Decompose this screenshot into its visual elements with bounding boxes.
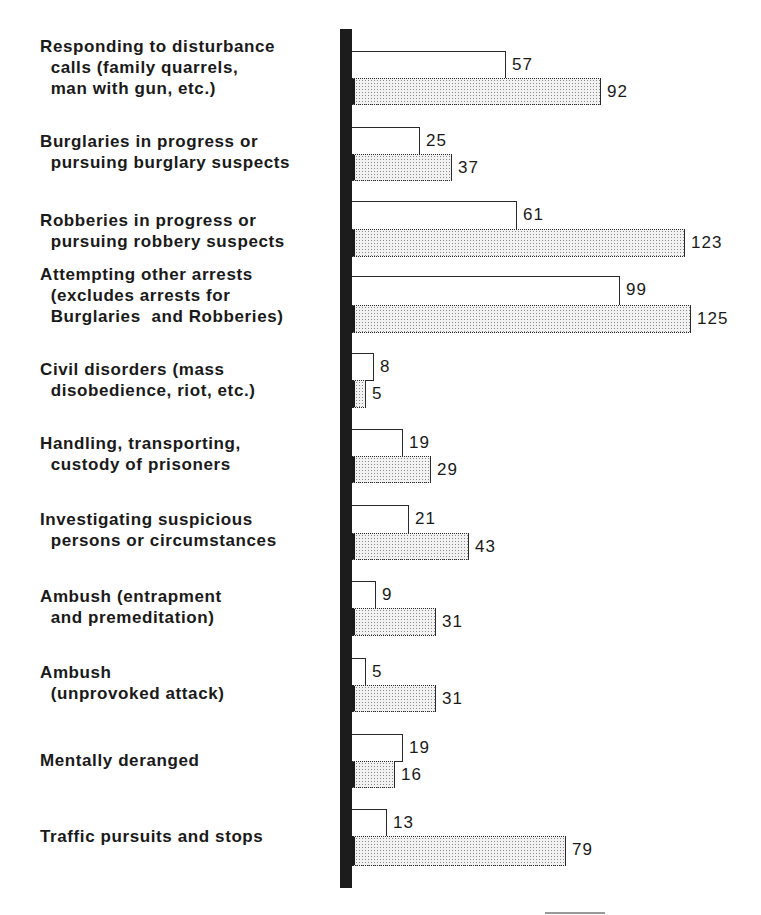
value-label-white: 19 <box>409 738 430 758</box>
value-label-white: 9 <box>382 585 392 605</box>
bar-dotted <box>352 836 566 866</box>
bar-dotted <box>352 608 436 636</box>
bar-dotted <box>352 380 366 408</box>
category-label: Traffic pursuits and stops <box>40 826 263 847</box>
value-label-white: 19 <box>409 433 430 453</box>
category-label: Responding to disturbance calls (family … <box>40 36 275 99</box>
category-label: Mentally deranged <box>40 750 199 771</box>
category-label: Civil disorders (mass disobedience, riot… <box>40 359 256 401</box>
value-label-dotted: 29 <box>437 460 458 480</box>
category-label: Investigating suspicious persons or circ… <box>40 509 277 551</box>
category-label: Ambush (unprovoked attack) <box>40 662 225 704</box>
bar-dotted <box>352 229 685 257</box>
value-label-white: 25 <box>426 131 447 151</box>
value-label-dotted: 5 <box>372 384 382 404</box>
bar-white <box>352 505 409 534</box>
category-label: Attempting other arrests (excludes arres… <box>40 264 284 327</box>
value-label-dotted: 16 <box>401 765 422 785</box>
category-label: Ambush (entrapment and premeditation) <box>40 586 222 628</box>
value-label-dotted: 43 <box>475 537 496 557</box>
bar-white <box>352 276 620 306</box>
vertical-axis-bar <box>340 29 352 888</box>
value-label-dotted: 123 <box>691 233 722 253</box>
value-label-white: 21 <box>415 509 436 529</box>
bar-dotted <box>352 154 452 181</box>
category-label: Handling, transporting, custody of priso… <box>40 433 241 475</box>
category-label: Burglaries in progress or pursuing burgl… <box>40 131 290 173</box>
bar-white <box>352 734 403 762</box>
value-label-white: 61 <box>523 205 544 225</box>
bar-white <box>352 51 506 79</box>
value-label-dotted: 31 <box>442 689 463 709</box>
value-label-white: 8 <box>380 357 390 377</box>
bar-dotted <box>352 456 431 483</box>
bar-dotted <box>352 761 395 788</box>
value-label-dotted: 125 <box>697 309 728 329</box>
value-label-dotted: 92 <box>607 82 628 102</box>
bar-dotted <box>352 533 469 560</box>
bar-white <box>352 127 420 155</box>
value-label-white: 99 <box>626 280 647 300</box>
bar-dotted <box>352 305 691 333</box>
value-label-white: 13 <box>393 813 414 833</box>
bar-white <box>352 581 376 609</box>
category-label: Robberies in progress or pursuing robber… <box>40 210 285 252</box>
bar-dotted <box>352 685 436 712</box>
value-label-dotted: 79 <box>572 840 593 860</box>
bar-white <box>352 353 374 381</box>
value-label-white: 5 <box>372 662 382 682</box>
value-label-white: 57 <box>512 55 533 75</box>
footer-rule <box>545 912 605 914</box>
value-label-dotted: 31 <box>442 612 463 632</box>
bar-dotted <box>352 78 601 105</box>
bar-white <box>352 809 387 837</box>
bar-white <box>352 201 517 230</box>
bar-white <box>352 658 366 686</box>
bar-white <box>352 429 403 457</box>
value-label-dotted: 37 <box>458 158 479 178</box>
